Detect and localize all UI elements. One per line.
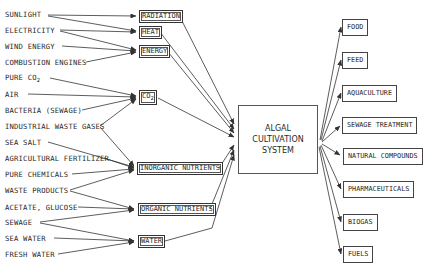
input-water: WATER: [138, 235, 165, 248]
source-wind-energy: WIND ENERGY: [5, 42, 55, 51]
source-waste-products: WASTE PRODUCTS: [5, 186, 68, 195]
input-co2: CO2: [139, 90, 157, 105]
subscript: 2: [150, 95, 153, 101]
output-fuels: FUELS: [343, 246, 373, 263]
source-electricity: ELECTRICITY: [5, 26, 55, 35]
input-energy: ENERGY: [139, 45, 170, 58]
source-sea-water: SEA WATER: [5, 234, 46, 243]
source-sea-salt: SEA SALT: [5, 138, 41, 147]
center-line-3: SYSTEM: [262, 145, 294, 156]
source-pure-co2-text: PURE CO: [5, 73, 37, 82]
input-inorganic-nutrients: INORGANIC NUTRIENTS: [137, 162, 223, 175]
input-heat: HEAT: [139, 26, 162, 39]
source-acetate-glucose: ACETATE, GLUCOSE: [5, 203, 77, 212]
center-line-1: ALGAL: [265, 123, 291, 134]
output-biogas: BIOGAS: [343, 214, 378, 231]
output-aquaculture: AQUACULTURE: [342, 85, 397, 102]
algal-cultivation-system-box: ALGAL CULTIVATION SYSTEM: [238, 105, 318, 174]
output-pharmaceuticals: PHARMACEUTICALS: [343, 181, 414, 198]
source-bacteria-sewage: BACTERIA (SEWAGE): [5, 106, 82, 115]
subscript: 2: [37, 77, 41, 83]
source-sewage: SEWAGE: [5, 218, 32, 227]
source-fresh-water: FRESH WATER: [5, 250, 55, 259]
source-agricultural-fertilizer: AGRICULTURAL FERTILIZER: [5, 154, 109, 163]
source-pure-co2: PURE CO2: [5, 73, 40, 85]
source-air: AIR: [5, 90, 19, 99]
source-pure-chemicals: PURE CHEMICALS: [5, 170, 68, 179]
center-line-2: CULTIVATION: [252, 134, 303, 145]
output-food: FOOD: [342, 19, 368, 36]
source-combustion-engines: COMBUSTION ENGINES: [5, 58, 87, 67]
output-sewage-treatment: SEWAGE TREATMENT: [342, 117, 417, 134]
input-organic-nutrients: ORGANIC NUTRIENTS: [138, 203, 216, 216]
output-natural-compounds: NATURAL COMPOUNDS: [343, 148, 423, 165]
output-feed: FEED: [342, 52, 368, 69]
input-radiation: RADIATION: [139, 10, 183, 23]
source-industrial-waste-gases: INDUSTRIAL WASTE GASES: [5, 122, 105, 131]
source-sunlight: SUNLIGHT: [5, 10, 41, 19]
